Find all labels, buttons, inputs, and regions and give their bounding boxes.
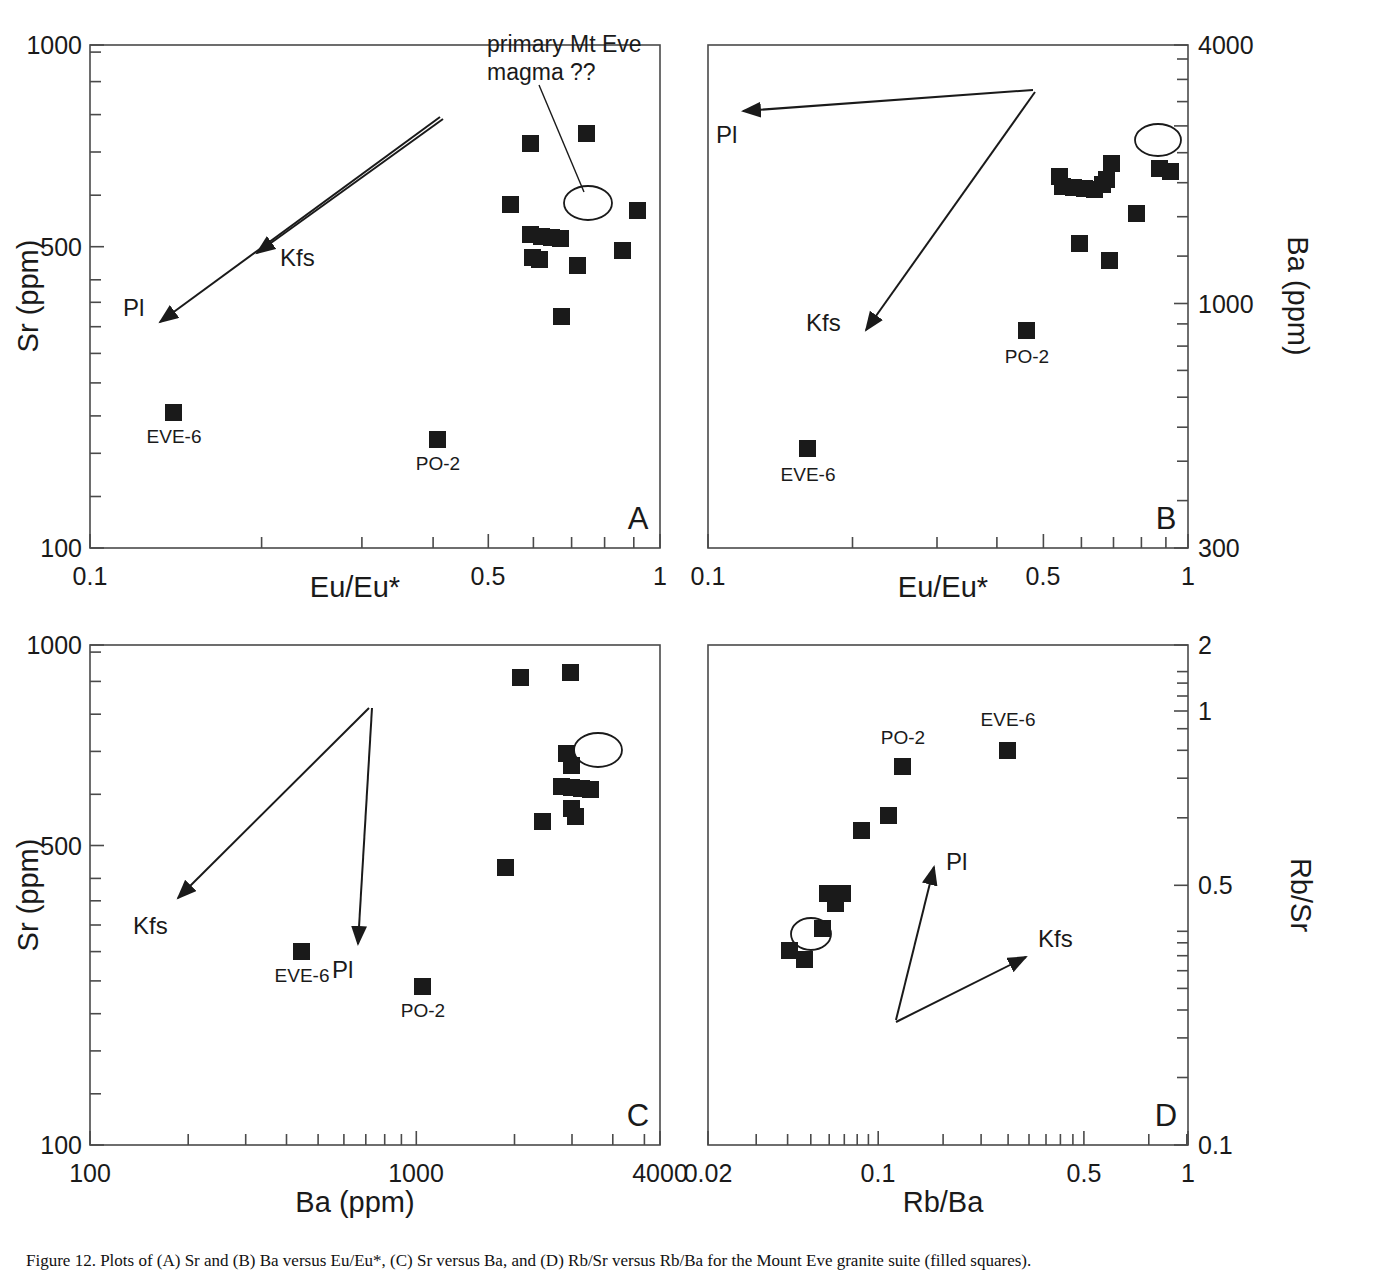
panel-b-svg: 4000 1000 300 0.1 0.5 1 Ba (ppm) Eu/Eu* … [688,0,1376,620]
y-axis-title: Sr (ppm) [12,839,44,952]
panel-letter: A [628,501,649,536]
vector-group: Pl Kfs [896,848,1073,1022]
x-tick-label-0.1: 0.1 [861,1159,896,1187]
y-axis-ticks [90,645,104,1145]
data-markers [293,664,599,995]
y-axis-title: Ba (ppm) [1282,236,1314,355]
y-axis-ticks [1174,45,1188,548]
data-point [562,664,579,681]
x-tick-label-0.02: 0.02 [684,1159,733,1187]
x-axis-ticks [90,1131,660,1145]
vector-kfs-arrow [896,957,1026,1022]
y-tick-label-100: 100 [40,534,82,562]
panel-letter: D [1155,1098,1177,1133]
data-point [1071,235,1088,252]
data-point [552,230,569,247]
data-point [534,813,551,830]
data-markers [781,742,1016,968]
vector-kfs-arrow [178,708,369,898]
point-label-po2: PO-2 [881,727,925,748]
panel-letter: B [1156,501,1177,536]
figure-root: 1000 500 100 0.1 0.5 1 Sr (ppm) Eu/Eu* P… [0,0,1376,1273]
data-point [814,920,831,937]
vector-pl-arrow [160,117,440,322]
x-axis-title: Rb/Ba [903,1186,984,1218]
y-tick-label-1: 1 [1198,697,1212,725]
data-point [429,431,446,448]
point-label-eve6: EVE-6 [781,464,836,485]
panel-c-svg: 1000 500 100 100 1000 4000 Sr (ppm) Ba (… [0,620,688,1220]
vector-label-kfs: Kfs [806,309,841,336]
point-label-po2: PO-2 [416,453,460,474]
vector-label-kfs: Kfs [133,912,168,939]
x-axis-title: Eu/Eu* [310,571,400,603]
x-tick-label-1: 1 [653,562,667,590]
vector-pl-arrow [743,90,1033,111]
vector-label-kfs: Kfs [1038,925,1073,952]
panel-a: 1000 500 100 0.1 0.5 1 Sr (ppm) Eu/Eu* P… [0,0,688,620]
data-point [293,943,310,960]
data-point [497,859,514,876]
data-point [629,202,646,219]
x-tick-label-0.5: 0.5 [471,562,506,590]
data-point [1162,163,1179,180]
y-tick-label-0.1: 0.1 [1198,1131,1233,1159]
data-point [522,135,539,152]
point-label-eve6: EVE-6 [981,709,1036,730]
vector-group: Pl Kfs [123,117,443,322]
y-axis-title: Sr (ppm) [12,240,44,353]
data-point [1018,322,1035,339]
vector-label-pl: Pl [332,956,353,983]
vector-label-pl: Pl [946,848,967,875]
x-tick-label-0.5: 0.5 [1026,562,1061,590]
x-tick-label-4000: 4000 [632,1159,688,1187]
vector-label-kfs: Kfs [280,244,315,271]
y-tick-label-100: 100 [40,1131,82,1159]
panel-d: 2 1 0.5 0.1 0.02 0.1 0.5 1 Rb/Sr Rb/Ba P… [688,620,1376,1220]
data-point [553,308,570,325]
y-axis-ticks [90,45,104,548]
x-axis-ticks [708,1131,1188,1145]
x-tick-label-0.5: 0.5 [1067,1159,1102,1187]
annotation-line-2: magma ?? [487,59,596,85]
data-point [799,440,816,457]
data-point [531,251,548,268]
x-axis-title: Eu/Eu* [898,571,988,603]
annotation-primary-magma: primary Mt Eve magma ?? [487,31,642,192]
open-ellipse-marker [1135,124,1181,156]
vector-kfs-arrow [866,92,1035,330]
data-point [1098,171,1115,188]
y-tick-label-300: 300 [1198,534,1240,562]
y-tick-label-0.5: 0.5 [1198,871,1233,899]
data-point [1101,252,1118,269]
panel-d-svg: 2 1 0.5 0.1 0.02 0.1 0.5 1 Rb/Sr Rb/Ba P… [688,620,1376,1220]
vector-pl-arrow [358,708,372,944]
point-label-eve6: EVE-6 [147,426,202,447]
open-ellipse-marker [574,733,622,767]
vector-label-pl: Pl [716,121,737,148]
y-tick-label-500: 500 [40,233,82,261]
figure-caption: Figure 12. Plots of (A) Sr and (B) Ba ve… [26,1249,1356,1273]
y-tick-label-500: 500 [40,832,82,860]
plot-frame [90,645,660,1145]
y-axis-ticks [1174,645,1188,1145]
data-point [578,125,595,142]
point-label-eve6: EVE-6 [275,965,330,986]
panel-b: 4000 1000 300 0.1 0.5 1 Ba (ppm) Eu/Eu* … [688,0,1376,620]
data-point [1103,155,1120,172]
x-tick-label-1000: 1000 [388,1159,444,1187]
data-point [502,196,519,213]
data-point [999,742,1016,759]
panel-a-svg: 1000 500 100 0.1 0.5 1 Sr (ppm) Eu/Eu* P… [0,0,688,620]
point-label-po2: PO-2 [401,1000,445,1021]
data-point [614,242,631,259]
x-axis-title: Ba (ppm) [295,1186,414,1218]
leader-line [539,85,584,192]
x-tick-label-1: 1 [1181,1159,1195,1187]
data-point [512,669,529,686]
panel-letter: C [627,1098,649,1133]
plot-frame [90,45,660,548]
y-tick-label-1000: 1000 [26,631,82,659]
x-axis-ticks [90,534,660,548]
data-point [796,951,813,968]
